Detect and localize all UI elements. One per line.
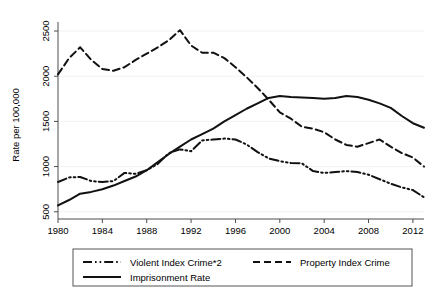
y-tick-label-2500: 2500 [40,20,51,41]
x-tick-label-1988: 1988 [136,225,157,236]
x-tick-label-2012: 2012 [402,225,423,236]
legend-label-property-index-crime: Property Index Crime [300,257,390,268]
x-tick-label-1996: 1996 [225,225,246,236]
gridlines-group [58,31,424,212]
x-tick-group: 198019841988199219962000200420082012 [47,219,423,236]
legend-border [73,249,412,286]
series-line-violent-index-crime-2 [58,139,424,198]
x-tick-label-2008: 2008 [358,225,379,236]
legend-label-violent-index-crime-2: Violent Index Crime*2 [130,257,222,268]
y-tick-group: 5001000150020002500 [40,20,58,219]
x-tick-label-1984: 1984 [92,225,113,236]
x-tick-label-1992: 1992 [181,225,202,236]
y-tick-label-500: 500 [40,204,51,220]
series-line-property-index-crime [58,30,424,166]
axes-group [58,22,424,219]
chart-figure: 5001000150020002500 19801984198819921996… [0,0,438,299]
legend-label-imprisonment-rate: Imprisonment Rate [130,272,210,283]
x-tick-label-2004: 2004 [314,225,335,236]
y-axis-title: Rate per 100,000 [10,88,21,161]
x-tick-label-1980: 1980 [47,225,68,236]
line-chart: 5001000150020002500 19801984198819921996… [0,0,438,299]
y-tick-label-2000: 2000 [40,66,51,87]
series-line-imprisonment-rate [58,96,424,205]
chart-legend: Violent Index Crime*2Property Index Crim… [73,249,412,286]
series-group [58,30,424,205]
y-tick-label-1500: 1500 [40,111,51,132]
y-tick-label-1000: 1000 [40,156,51,177]
x-tick-label-2000: 2000 [269,225,290,236]
